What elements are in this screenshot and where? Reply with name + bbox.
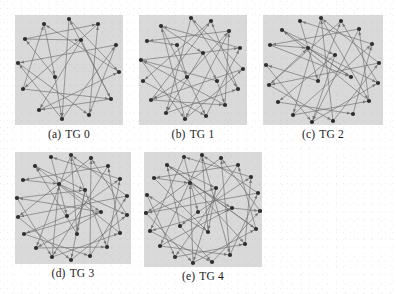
graph-node [141,79,145,83]
graph-node [230,206,234,210]
graph-node [118,177,122,181]
graph-node [351,112,355,116]
graph-node [367,99,371,103]
graph-edge-arrowhead [37,242,40,246]
graph-node [152,176,156,180]
graph-node [316,79,320,83]
graph-edge [44,24,119,72]
graph-node [178,224,182,228]
graph-node [50,255,54,259]
panel-tag-tg-1: (b) [172,128,186,140]
graph-node [189,16,193,20]
panel-tag-tg-4: (e) [182,270,195,282]
graph-node [175,43,179,47]
panel-tag-tg-2: (c) [302,128,315,140]
graph-edge [212,211,260,262]
graph-node [319,16,323,20]
graph-node [99,210,103,214]
graph-node [53,75,57,79]
graph-node [196,210,200,214]
panel-label-tg-3: TG 3 [70,267,95,279]
graph-node [201,51,205,55]
graph-node [117,70,121,74]
graph-node [214,186,218,190]
graph-node [158,244,162,248]
graph-node [243,242,247,246]
graph-drawing-tg-4 [144,152,262,267]
graph-node [209,19,213,23]
graph-canvas-tg-4 [144,152,262,267]
graph-edge-arrowhead [212,23,215,27]
graph-edge-arrowhead [84,253,88,256]
graph-node [241,67,245,71]
graph-canvas-tg-2 [263,15,383,125]
graph-node [276,100,280,104]
graph-node [268,43,272,47]
graph-node [21,178,25,182]
graph-edge [184,157,251,177]
panel-caption-tg-4: (e)TG 4 [182,270,224,282]
graph-node [185,75,189,79]
graph-node [357,27,361,31]
graph-edge-arrowhead [222,99,225,103]
graph-node [89,156,93,160]
graph-node [291,113,295,117]
graph-edge-arrowhead [117,182,120,186]
graph-node [34,246,38,250]
panel-tg-2: (c)TG 2 [263,15,383,140]
graph-node [88,254,92,258]
graph-edge [23,24,44,89]
graph-edge-arrowhead [71,254,74,258]
graph-edge-arrowhead [186,157,190,160]
graph-edge [52,233,120,257]
graph-edge [146,213,193,263]
panel-tg-0: (a)TG 0 [15,15,123,140]
panel-caption-tg-2: (c)TG 2 [302,128,344,140]
graph-node [37,108,41,112]
graph-node [223,103,227,107]
graph-node [280,28,284,32]
graph-node [65,214,69,218]
graph-node [109,97,113,101]
graph-node [42,22,46,26]
graph-node [182,155,186,159]
graph-node [238,46,242,50]
graph-edge-arrowhead [363,101,367,104]
graph-node [370,42,374,46]
graph-node [331,119,335,123]
graph-edge [24,212,101,234]
panel-tag-tg-0: (a) [48,128,61,140]
panel-caption-tg-1: (b)TG 1 [172,128,215,140]
graph-edge [24,234,90,256]
graph-node [67,17,71,21]
graph-node [139,58,143,62]
graph-edge [62,19,69,119]
graph-edge-arrowhead [108,169,111,173]
panel-caption-tg-0: (a)TG 0 [48,128,90,140]
graph-edge [185,31,229,119]
graph-edge-arrowhead [167,168,170,172]
graph-edge [221,158,260,211]
graph-node [339,19,343,23]
graph-edge [141,60,185,119]
graph-node [200,153,204,157]
graph-node [191,261,195,265]
graph-node [215,79,219,83]
graph-edge [39,40,81,110]
graph-edge-arrowhead [293,109,296,113]
graph-node [298,19,302,23]
graph-edge-arrowhead [347,112,351,115]
graph-drawing-tg-1 [139,15,247,125]
panel-label-tg-4: TG 4 [199,270,224,282]
graph-edge [282,30,369,101]
graph-edge [23,89,111,99]
graph-edge-arrowhead [171,43,175,46]
graph-node [22,232,26,236]
graph-node [159,24,163,28]
graph-node [16,61,20,65]
graph-edge [300,21,318,81]
graph-node [204,114,208,118]
graph-node [149,98,153,102]
graph-drawing-tg-2 [263,15,383,125]
graph-node [69,258,73,262]
